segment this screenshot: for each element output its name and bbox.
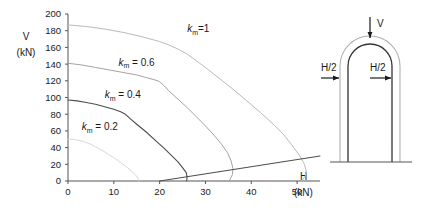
y-tick-label: 40 bbox=[50, 142, 61, 153]
x-tick-label: 0 bbox=[65, 186, 70, 197]
chart-svg: 020406080100120140160180200 01020304050 … bbox=[0, 0, 330, 214]
x-tick-label: 20 bbox=[154, 186, 165, 197]
curve-label-km_02: km = 0.2 bbox=[82, 121, 119, 134]
y-axis-title: V bbox=[23, 31, 30, 42]
arch-diagram: V H/2 H/2 bbox=[318, 0, 446, 214]
y-tick-label: 80 bbox=[50, 109, 61, 120]
y-tick-label: 100 bbox=[45, 92, 61, 103]
curve-label-km_1: km=1 bbox=[187, 23, 210, 36]
load-h-left-label: H/2 bbox=[321, 62, 337, 73]
y-tick-label: 140 bbox=[45, 59, 61, 70]
chart-axes bbox=[65, 14, 320, 184]
x-axis-tick-labels: 01020304050 bbox=[65, 186, 302, 197]
curve-label-km_04: km = 0.4 bbox=[105, 89, 142, 102]
load-h-right-label: H/2 bbox=[370, 62, 386, 73]
figure-root: 020406080100120140160180200 01020304050 … bbox=[0, 0, 446, 214]
x-tick-label: 10 bbox=[109, 186, 120, 197]
y-tick-label: 200 bbox=[45, 8, 61, 19]
y-tick-label: 60 bbox=[50, 125, 61, 136]
y-tick-label: 180 bbox=[45, 25, 61, 36]
y-tick-label: 120 bbox=[45, 75, 61, 86]
chart-curves bbox=[68, 25, 320, 181]
x-tick-label: 30 bbox=[200, 186, 211, 197]
arch-outer-profile bbox=[340, 36, 400, 148]
arch-inner-profile bbox=[348, 44, 392, 148]
y-axis-unit: (kN) bbox=[17, 47, 36, 58]
arch-diagram-svg: V H/2 H/2 bbox=[318, 0, 446, 214]
curve-km_1 bbox=[68, 25, 306, 181]
y-axis-tick-labels: 020406080100120140160180200 bbox=[45, 8, 61, 186]
curve-label-km_06: km = 0.6 bbox=[118, 57, 155, 70]
y-tick-label: 160 bbox=[45, 42, 61, 53]
curve-labels: km=1km = 0.6km = 0.4km = 0.2 bbox=[82, 23, 210, 133]
x-tick-label: 40 bbox=[246, 186, 257, 197]
curve-km_02 bbox=[68, 139, 139, 181]
x-axis-unit: (kN) bbox=[294, 187, 313, 198]
y-tick-label: 20 bbox=[50, 159, 61, 170]
curve-km_04 bbox=[68, 100, 187, 181]
interaction-chart: 020406080100120140160180200 01020304050 … bbox=[0, 0, 330, 214]
load-v-label: V bbox=[377, 18, 384, 29]
y-tick-label: 0 bbox=[56, 175, 61, 186]
